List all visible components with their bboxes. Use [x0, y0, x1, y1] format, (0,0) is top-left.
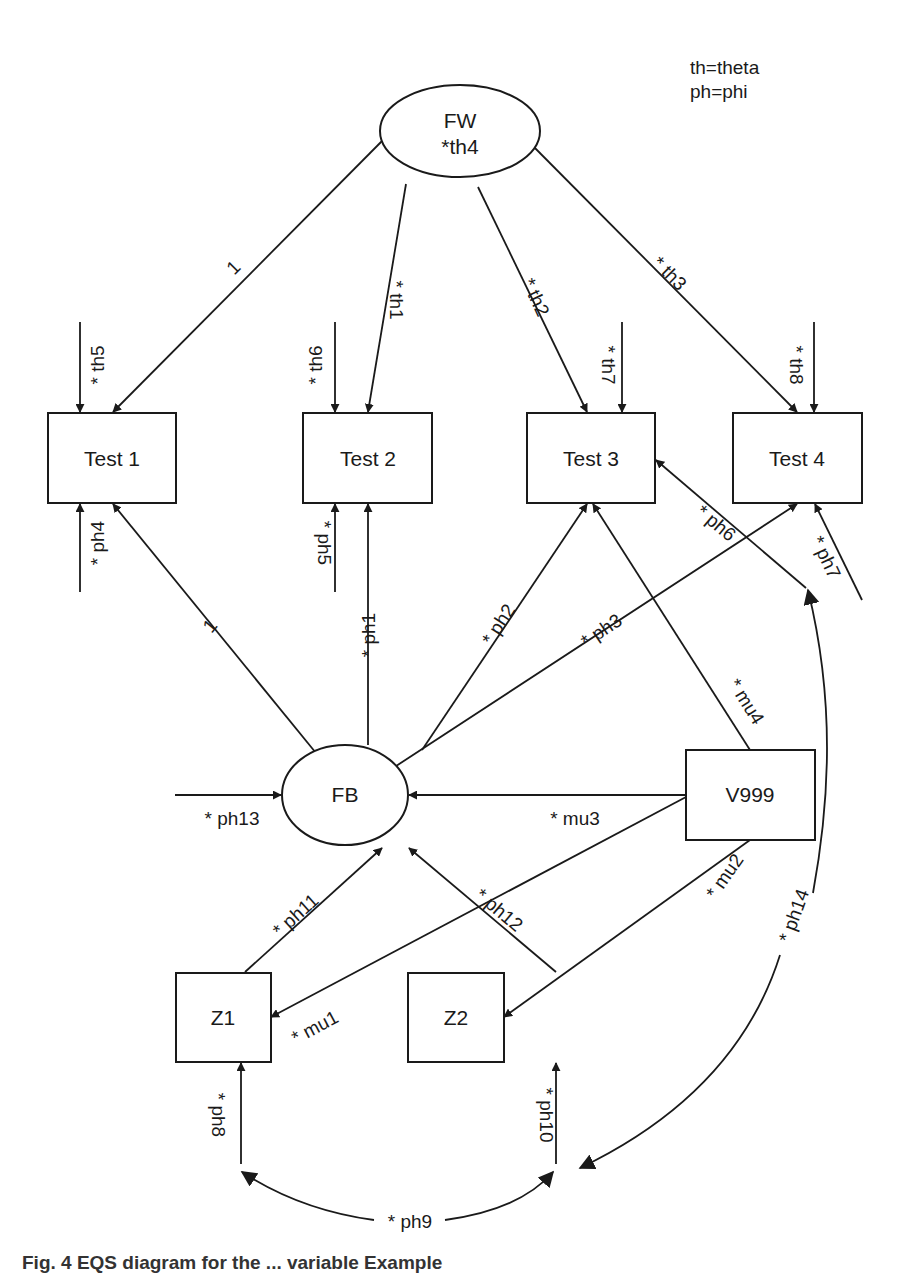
- svg-text:* ph6: * ph6: [692, 501, 739, 546]
- svg-text:1: 1: [222, 256, 244, 278]
- svg-text:* ph8: * ph8: [208, 1093, 229, 1137]
- svg-text:* mu3: * mu3: [550, 808, 600, 829]
- svg-text:* mu2: * mu2: [702, 850, 748, 903]
- svg-text:* ph3: * ph3: [577, 609, 626, 651]
- svg-text:*th4: *th4: [441, 135, 479, 158]
- svg-text:Test 1: Test 1: [84, 447, 140, 470]
- figure-caption: Fig. 4 EQS diagram for the ... variable …: [22, 1252, 442, 1274]
- node-z2[interactable]: Z2: [408, 973, 504, 1062]
- node-fw[interactable]: FW *th4: [380, 85, 540, 177]
- svg-text:* ph12: * ph12: [471, 884, 527, 935]
- svg-text:Z1: Z1: [211, 1006, 236, 1029]
- svg-text:* ph10: * ph10: [536, 1088, 557, 1143]
- label-mu1: * mu1: [288, 1006, 342, 1048]
- svg-text:* ph13: * ph13: [205, 808, 260, 829]
- edge-ext-test1: * ph4: [80, 504, 108, 592]
- node-test4[interactable]: Test 4: [733, 413, 862, 503]
- svg-text:* th5: * th5: [87, 345, 108, 384]
- svg-text:* ph1: * ph1: [358, 613, 379, 657]
- svg-text:Test 2: Test 2: [340, 447, 396, 470]
- edge-fw-test2: * th1: [368, 184, 407, 412]
- edge-ext-test4: * ph7: [807, 504, 862, 600]
- edge-err-test4: * th8: [786, 322, 814, 412]
- edge-ext-fb: * ph13: [175, 795, 281, 829]
- edge-err-test2: * th6: [305, 322, 335, 412]
- node-fb[interactable]: FB: [282, 745, 408, 845]
- edge-fw-test1: 1: [113, 140, 383, 412]
- svg-text:Z2: Z2: [444, 1006, 469, 1029]
- edge-err-test3: * th7: [598, 322, 622, 412]
- edge-fw-test3: * th2: [478, 187, 587, 412]
- edge-fb-test3: * ph2: [422, 504, 587, 750]
- node-v999[interactable]: V999: [686, 750, 815, 840]
- svg-text:* th3: * th3: [648, 252, 690, 294]
- svg-text:* th2: * th2: [518, 275, 554, 319]
- svg-text:* th6: * th6: [305, 345, 326, 384]
- svg-text:FW: FW: [444, 109, 477, 132]
- edge-ext-z2: * ph10: [536, 1063, 557, 1164]
- node-test1[interactable]: Test 1: [48, 413, 176, 503]
- svg-text:* ph7: * ph7: [807, 533, 845, 582]
- svg-text:FB: FB: [332, 783, 359, 806]
- node-z1[interactable]: Z1: [176, 973, 271, 1062]
- svg-text:* ph11: * ph11: [269, 889, 323, 940]
- edge-v999-fb: * mu3: [409, 795, 686, 829]
- svg-text:* ph9: * ph9: [388, 1211, 432, 1232]
- edge-z2-fb: * ph12: [409, 848, 556, 972]
- edge-z1-fb: * ph11: [245, 848, 382, 972]
- edge-err-test1: * th5: [80, 322, 108, 412]
- node-test2[interactable]: Test 2: [303, 413, 432, 503]
- svg-text:Test 3: Test 3: [563, 447, 619, 470]
- edge-v999-z2: * mu2: [504, 840, 750, 1017]
- edge-fb-test4: * ph3: [390, 504, 797, 770]
- edge-ext-test2: * ph5: [314, 504, 335, 592]
- svg-text:* ph4: * ph4: [87, 520, 108, 565]
- svg-text:* th8: * th8: [786, 345, 807, 384]
- edge-fb-test1: 1: [113, 504, 316, 753]
- svg-text:* ph2: * ph2: [478, 600, 520, 649]
- svg-text:Test 4: Test 4: [769, 447, 825, 470]
- svg-text:* ph5: * ph5: [314, 521, 335, 565]
- edge-ext-z1: * ph8: [208, 1063, 241, 1164]
- edge-cov-z1-z2: * ph9: [242, 1172, 553, 1232]
- node-test3[interactable]: Test 3: [527, 413, 655, 503]
- edge-fw-test4: * th3: [528, 141, 797, 412]
- svg-text:V999: V999: [725, 783, 774, 806]
- svg-text:* th7: * th7: [598, 345, 619, 384]
- svg-text:* ph14: * ph14: [775, 886, 814, 945]
- svg-text:* th1: * th1: [386, 280, 407, 319]
- edge-fb-test2: * ph1: [358, 504, 379, 745]
